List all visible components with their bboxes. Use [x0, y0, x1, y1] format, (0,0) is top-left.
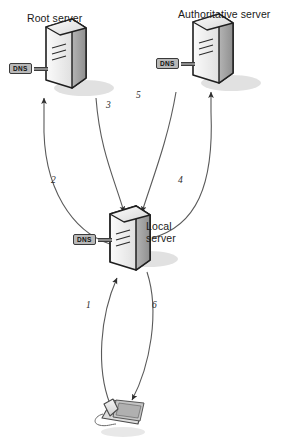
step-label-3: 3 [106, 100, 111, 110]
step-label-4: 4 [178, 175, 183, 185]
dns-badge-stem-root [34, 67, 48, 71]
dns-badge-authoritative-server: DNS [156, 58, 179, 69]
dns-badge-stem-auth [181, 62, 195, 66]
step-label-2: 2 [51, 175, 56, 185]
dns-resolution-diagram: Root server Authoritative server Local s… [0, 0, 287, 443]
label-layer: Root server Authoritative server Local s… [0, 0, 287, 443]
authoritative-server-label: Authoritative server [178, 8, 270, 20]
local-server-label: Local server [146, 220, 200, 244]
root-server-label: Root server [27, 12, 82, 24]
local-server-label-line1: Local [146, 220, 200, 232]
dns-badge-root-server: DNS [9, 63, 32, 74]
local-server-label-line2: server [146, 232, 200, 244]
step-label-1: 1 [86, 300, 91, 310]
step-label-6: 6 [152, 300, 157, 310]
step-label-5: 5 [136, 90, 141, 100]
dns-badge-local-server: DNS [73, 234, 96, 245]
dns-badge-stem-local [98, 238, 112, 242]
